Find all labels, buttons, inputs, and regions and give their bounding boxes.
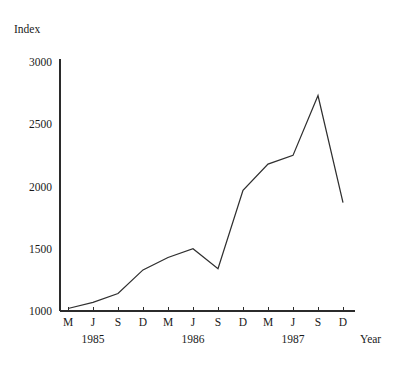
x-axis-year-label: 1987 [282, 333, 305, 345]
x-tick-label: M [263, 316, 273, 328]
x-tick-label: D [339, 316, 347, 328]
x-tick-label: S [115, 316, 121, 328]
x-axis-year-label: 1986 [182, 333, 205, 345]
x-axis-title: Year [360, 333, 381, 345]
line-chart: 10001500200025003000 MJSDMJSDMJSD1985198… [0, 0, 394, 366]
x-axis-year-label: 1985 [82, 333, 105, 345]
x-tick-label: S [315, 316, 321, 328]
y-tick-label: 2500 [29, 118, 52, 130]
x-tick-label: M [163, 316, 173, 328]
y-tick-label: 3000 [29, 56, 52, 68]
x-tick-label: S [215, 316, 221, 328]
x-axis: MJSDMJSDMJSD198519861987 [60, 307, 355, 345]
chart-canvas: 10001500200025003000 MJSDMJSDMJSD1985198… [0, 0, 394, 366]
y-tick-label: 2000 [29, 181, 52, 193]
x-tick-label: J [91, 316, 96, 328]
x-tick-label: M [63, 316, 73, 328]
index-line-series [68, 96, 343, 309]
chart-labels: IndexYear [14, 23, 381, 345]
x-tick-label: D [239, 316, 247, 328]
y-axis-title: Index [14, 23, 40, 35]
y-tick-label: 1000 [29, 305, 52, 317]
x-tick-label: J [291, 316, 296, 328]
x-tick-label: D [139, 316, 147, 328]
data-series-index [68, 96, 343, 309]
y-tick-label: 1500 [29, 243, 52, 255]
x-tick-label: J [191, 316, 196, 328]
y-axis: 10001500200025003000 [29, 56, 60, 317]
